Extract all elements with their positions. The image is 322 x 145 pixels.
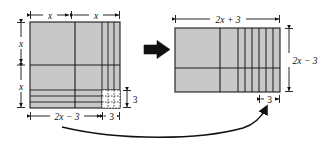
left-diagram-group: x x x x — [14, 9, 138, 122]
left-side-label-2: x — [18, 82, 24, 92]
right-top-label: 2x + 3 — [216, 15, 241, 25]
left-right-dimension: 3 — [123, 91, 138, 108]
area-model-figure: x x x x — [0, 0, 322, 145]
left-top-dimensions: x x — [31, 9, 120, 21]
left-side-dimensions: x x — [14, 23, 28, 108]
right-bottom-label: 3 — [267, 95, 272, 105]
left-top-label-1: x — [47, 11, 53, 21]
left-corner-cutout — [102, 90, 120, 108]
left-bottom-label-2: 3 — [109, 112, 114, 122]
right-rect-body — [175, 28, 280, 92]
curved-arrow-group — [62, 108, 266, 137]
left-right-label: 3 — [133, 95, 138, 105]
curved-arrow-path — [62, 108, 266, 137]
right-bottom-dimension: 3 — [260, 93, 280, 105]
left-top-label-2: x — [93, 11, 99, 21]
right-diagram-group: 2x + 3 2x − 3 3 — [175, 13, 318, 105]
figure-canvas: x x x x — [0, 0, 322, 145]
transform-arrow — [144, 41, 170, 59]
left-bottom-label-1: 2x − 3 — [55, 112, 80, 122]
right-side-dimension: 2x − 3 — [283, 29, 318, 92]
left-side-label-1: x — [18, 39, 24, 49]
right-side-label: 2x − 3 — [293, 56, 318, 66]
right-top-dimension: 2x + 3 — [176, 13, 280, 25]
left-bottom-dimensions: 2x − 3 3 — [31, 110, 120, 122]
transform-arrow-shape — [144, 41, 170, 59]
